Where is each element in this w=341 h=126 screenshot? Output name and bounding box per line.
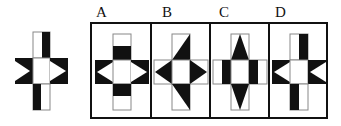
option-label-a: A: [96, 4, 107, 21]
divider-ab: [150, 22, 152, 117]
cross-option-a-icon: [94, 32, 150, 112]
option-d[interactable]: [271, 32, 327, 112]
cross-option-b-icon: [153, 32, 209, 112]
original-figure: [12, 30, 72, 112]
option-label-d: D: [275, 4, 286, 21]
option-label-b: B: [162, 4, 172, 21]
option-c[interactable]: [212, 32, 268, 112]
cross-option-c-icon: [212, 32, 268, 112]
divider-bc: [209, 22, 211, 117]
cross-figure-icon: [12, 30, 72, 112]
option-b[interactable]: [153, 32, 209, 112]
option-a[interactable]: [94, 32, 150, 112]
option-label-c: C: [219, 4, 229, 21]
cross-option-d-icon: [271, 32, 327, 112]
divider-cd: [268, 22, 270, 117]
